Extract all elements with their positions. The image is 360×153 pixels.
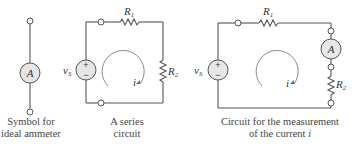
terminal-top (27, 18, 33, 24)
resistor-r1-icon (259, 20, 278, 26)
caption-line: Circuit for the measurement (210, 116, 350, 128)
ammeter-symbol: A (20, 18, 40, 115)
r2-label: R2 (167, 65, 179, 79)
current-label: i (286, 77, 289, 89)
caption-text: of the current (249, 128, 308, 139)
caption-series-circuit: A series circuit (92, 116, 162, 140)
r2-label: R2 (335, 78, 347, 92)
ammeter-label: A (327, 43, 335, 55)
resistor-r1-icon (120, 19, 139, 25)
arrowhead-icon (136, 80, 140, 84)
r1-label: R1 (123, 5, 134, 19)
caption-line: A series (92, 116, 162, 128)
terminal (98, 100, 104, 106)
source-label: vS (63, 64, 72, 78)
r1-label: R1 (262, 5, 273, 19)
minus-sign: − (83, 70, 88, 80)
caption-line: ideal ammeter (0, 128, 62, 140)
current-label: i (133, 76, 136, 88)
current-loop-arrow-icon (256, 50, 298, 86)
arrowhead-icon (290, 80, 294, 84)
caption-line: Symbol for (0, 116, 62, 128)
resistor-r2-icon (328, 76, 334, 95)
caption-measurement-circuit: Circuit for the measurement of the curre… (210, 116, 350, 140)
caption-variable: i (308, 128, 311, 139)
resistor-r2-icon (160, 60, 166, 82)
terminal (235, 20, 241, 26)
caption-line: of the current i (210, 128, 350, 140)
ammeter-label: A (26, 67, 34, 79)
current-loop-arrow-icon (102, 50, 144, 86)
measurement-circuit: A + − vS R1 R2 i (194, 5, 347, 108)
terminal (328, 28, 334, 34)
series-circuit: + − vS R1 R2 i (63, 5, 179, 106)
plus-sign: + (83, 60, 88, 70)
minus-sign: − (215, 70, 220, 80)
terminal (328, 64, 334, 70)
plus-sign: + (215, 60, 220, 70)
caption-line: circuit (92, 128, 162, 140)
terminal-bottom (27, 109, 33, 115)
source-label: vS (194, 64, 203, 78)
terminal (98, 19, 104, 25)
caption-ammeter-symbol: Symbol for ideal ammeter (0, 116, 62, 140)
terminal (328, 100, 334, 106)
